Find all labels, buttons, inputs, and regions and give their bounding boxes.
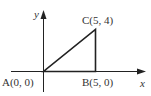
point-b-label: B(5, 0) bbox=[82, 77, 113, 88]
y-axis-arrow-icon bbox=[41, 10, 47, 19]
triangle-abc bbox=[44, 30, 96, 72]
x-axis-arrow-icon bbox=[137, 69, 146, 75]
point-c-label: C(5, 4) bbox=[82, 15, 113, 26]
y-axis-label: y bbox=[34, 9, 39, 20]
point-a-label: A(0, 0) bbox=[2, 77, 34, 88]
x-axis-label: x bbox=[140, 78, 145, 89]
